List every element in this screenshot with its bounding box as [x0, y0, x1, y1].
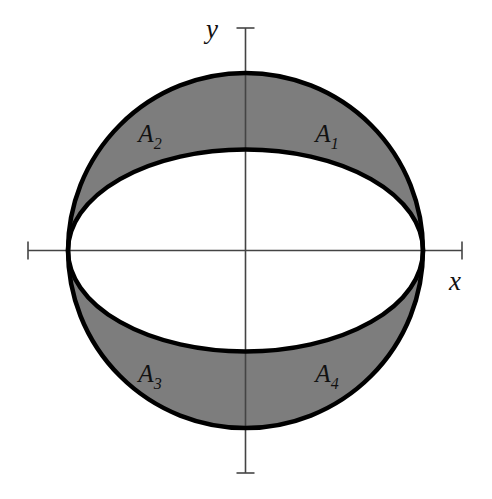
region-label-a2-base: A [136, 120, 154, 147]
y-axis-label: y [203, 14, 218, 44]
figure-container: y x A2 A1 A3 A4 [0, 0, 492, 499]
region-label-a1-base: A [313, 120, 331, 147]
region-label-a4-base: A [313, 360, 331, 387]
region-label-a3-subscript: 3 [153, 375, 162, 392]
region-label-a4-subscript: 4 [331, 375, 339, 392]
geometry-diagram: y x A2 A1 A3 A4 [0, 0, 492, 499]
region-label-a1-subscript: 1 [331, 135, 339, 152]
x-axis-label: x [448, 266, 461, 296]
region-label-a2-subscript: 2 [154, 135, 162, 152]
region-label-a3-base: A [136, 360, 154, 387]
